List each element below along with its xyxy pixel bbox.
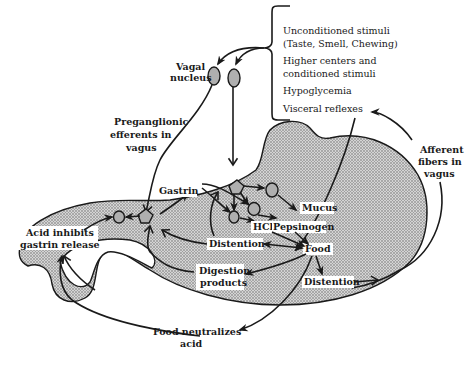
label-mucus: Mucus: [302, 202, 337, 213]
nucleus-cell-icon: [228, 69, 240, 87]
label-acid-inhibits: Acid inhibits: [25, 227, 94, 238]
label-preganglionic: Preganglionic: [114, 116, 189, 127]
stimuli-list: Unconditioned stimuli (Taste, Smell, Che…: [282, 25, 398, 114]
g-cell-icon: [114, 211, 125, 223]
label-vagal: Vagal: [175, 61, 205, 72]
mucous-cell-icon: [266, 183, 278, 197]
label-gastrin: Gastrin: [159, 185, 199, 196]
stimulus-hypoglycemia: Hypoglycemia: [283, 85, 352, 96]
label-gastrin-release: gastrin release: [20, 239, 100, 250]
stimulus-higher-centers-line1: Higher centers and: [283, 55, 377, 66]
stimulus-visceral-reflexes: Visceral reflexes: [282, 103, 363, 114]
label-food: Food: [305, 243, 331, 254]
label-vagus-afferent: vagus: [423, 168, 455, 179]
chief-cell-icon: [248, 203, 260, 216]
vagal-nucleus-cells: [208, 67, 240, 87]
stimulus-higher-centers-line2: conditioned stimuli: [283, 68, 376, 79]
label-products: products: [200, 277, 247, 288]
label-hcl: HCl: [253, 221, 274, 232]
label-distention-lower: Distention: [304, 276, 360, 287]
label-nucleus: nucleus: [170, 72, 212, 83]
label-efferents-in: efferents in: [110, 129, 171, 140]
label-digestion: Digestion: [199, 265, 250, 276]
label-afferent: Afferent: [419, 144, 464, 155]
label-distention-upper: Distention: [209, 238, 265, 249]
parietal-cell-icon: [229, 211, 239, 223]
stimulus-unconditioned-line1: Unconditioned stimuli: [283, 25, 390, 36]
label-food-neutralizes: Food neutralizes: [153, 326, 241, 337]
stimuli-to-nucleus-paths: [218, 48, 264, 64]
label-acid: acid: [180, 338, 203, 349]
stimulus-unconditioned-line2: (Taste, Smell, Chewing): [283, 38, 398, 49]
gastric-secretion-diagram: Unconditioned stimuli (Taste, Smell, Che…: [0, 0, 474, 366]
label-pepsinogen: Pepsinogen: [273, 221, 334, 232]
label-vagus-efferent: vagus: [125, 142, 157, 153]
label-fibers-in: fibers in: [418, 156, 462, 167]
